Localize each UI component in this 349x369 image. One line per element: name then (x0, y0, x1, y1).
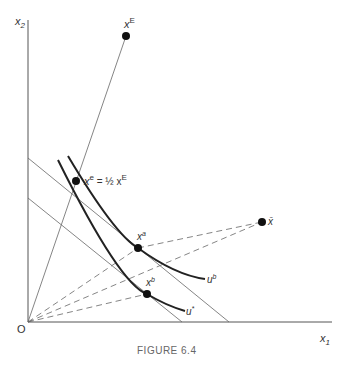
dashed-xa-to-xbar (138, 222, 262, 248)
budget-line-inner (28, 198, 182, 322)
figure-caption: FIGURE 6.4 (137, 345, 196, 356)
point-xb (143, 290, 151, 298)
label-xa: xa (136, 230, 146, 242)
dashed-O-to-xa (28, 248, 138, 322)
point-xa (134, 244, 142, 252)
figure-6-4-diagram: x2 x1 O xE xe = ½ xE xa xb x̄ ub u* FIGU… (0, 0, 349, 369)
x-axis-label: x1 (319, 332, 330, 347)
point-xe (72, 177, 80, 185)
dashed-O-to-xb (28, 294, 147, 322)
label-ub: ub (207, 273, 217, 285)
label-xb: xb (145, 276, 155, 288)
origin-label: O (17, 323, 26, 335)
label-xE: xE (123, 16, 135, 30)
label-ustar: u* (186, 305, 195, 317)
label-xbar: x̄ (267, 216, 274, 227)
point-xE (122, 32, 130, 40)
point-xbar (258, 218, 266, 226)
y-axis-label: x2 (14, 15, 26, 30)
dashed-O-to-xbar-lower (28, 222, 262, 322)
label-xe: xe = ½ xE (83, 173, 127, 187)
